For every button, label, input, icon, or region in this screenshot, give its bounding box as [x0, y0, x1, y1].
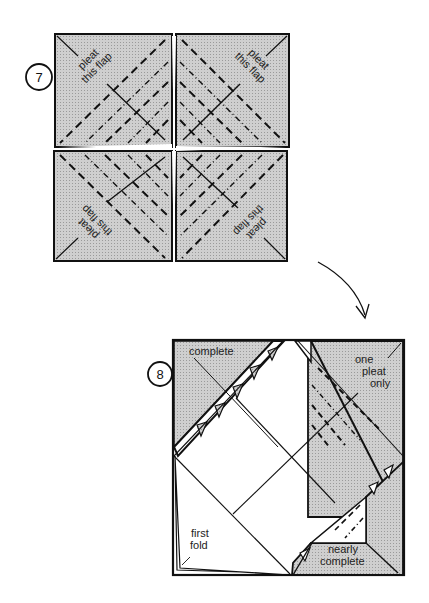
step-8-number: 8 — [156, 367, 163, 382]
label-one: one — [355, 353, 373, 365]
label-nearly-complete: complete — [320, 555, 365, 567]
transition-arrow — [318, 262, 369, 318]
origami-diagram: 7 — [0, 0, 429, 603]
step-7-diagram: 7 — [26, 34, 289, 261]
label-fold: fold — [190, 539, 208, 551]
step-7-number: 7 — [35, 70, 42, 85]
label-pleat: pleat — [362, 365, 386, 377]
label-nearly: nearly — [328, 543, 358, 555]
label-only: only — [370, 377, 391, 389]
label-first: first — [191, 527, 209, 539]
step-8-diagram: 8 — [148, 340, 404, 575]
step-8-number-badge: 8 — [148, 362, 172, 386]
step-7-number-badge: 7 — [26, 64, 52, 90]
label-complete: complete — [189, 345, 234, 357]
